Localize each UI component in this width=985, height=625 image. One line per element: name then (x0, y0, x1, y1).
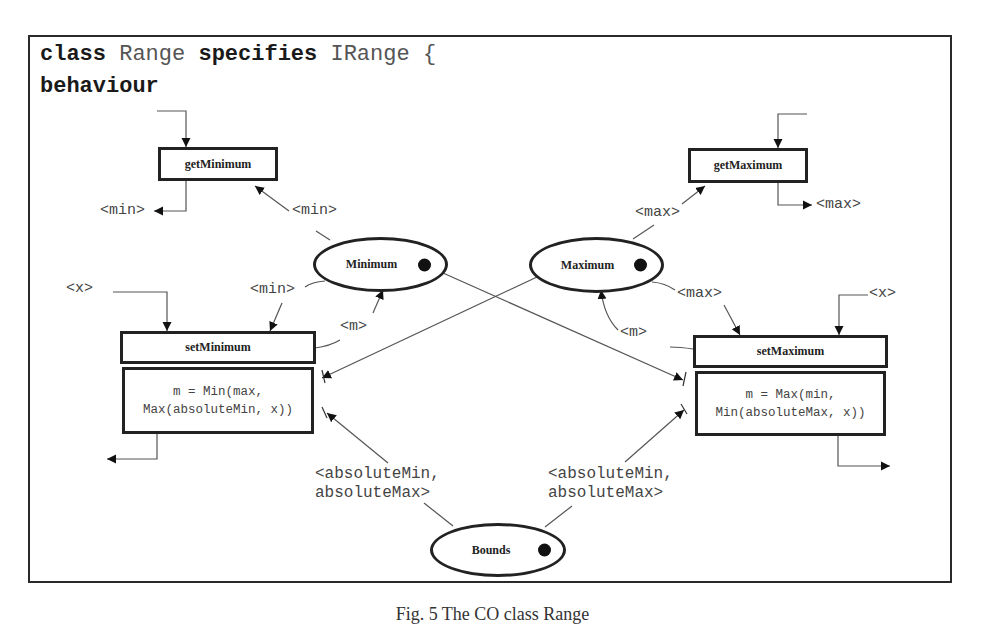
edge-label-min-to-getMinimum: <min> (292, 201, 337, 220)
edge-label-min-to-setMinimum: <min> (250, 280, 295, 299)
setMaximum-input-label: <x> (869, 284, 896, 303)
getMaximum-output-label: <max> (816, 195, 861, 214)
getMinimum-output-label: <min> (100, 201, 145, 220)
operation-setMaximum: setMaximum (693, 335, 888, 368)
state-maximum-label: Maximum (561, 258, 614, 273)
state-marker-dot-icon (538, 544, 551, 557)
operation-getMaximum: getMaximum (688, 148, 808, 183)
figure-caption: Fig. 5 The CO class Range (0, 604, 985, 625)
state-bounds: Bounds (430, 523, 566, 577)
edge-label-m-to-maximum: <m> (620, 323, 647, 342)
setMinimum-body: m = Min(max, Max(absoluteMin, x)) (122, 367, 314, 434)
edge-label-max-to-getMaximum: <max> (635, 203, 680, 222)
state-bounds-label: Bounds (472, 543, 511, 558)
setMaximum-body-line1: m = Max(min, (745, 386, 835, 404)
setMaximum-body: m = Max(min, Min(absoluteMax, x)) (695, 371, 886, 436)
state-maximum: Maximum (529, 237, 664, 293)
edge-label-bounds-to-setMaximum: <absoluteMin, absoluteMax> (548, 465, 673, 503)
operation-setMinimum: setMinimum (120, 331, 316, 364)
setMaximum-body-line2: Min(absoluteMax, x)) (715, 404, 865, 422)
state-marker-dot-icon (418, 258, 431, 271)
state-minimum: Minimum (313, 237, 448, 292)
edge-label-m-to-minimum: <m> (340, 317, 367, 336)
state-minimum-label: Minimum (346, 257, 397, 272)
setMinimum-input-label: <x> (66, 279, 93, 298)
edge-label-bounds-to-setMinimum: <absoluteMin, absoluteMax> (315, 465, 440, 503)
state-marker-dot-icon (634, 259, 647, 272)
edge-label-max-to-setMaximum: <max> (677, 284, 722, 303)
setMinimum-body-line1: m = Min(max, (173, 383, 263, 401)
operation-getMinimum: getMinimum (158, 147, 278, 181)
setMinimum-body-line2: Max(absoluteMin, x)) (143, 401, 293, 419)
